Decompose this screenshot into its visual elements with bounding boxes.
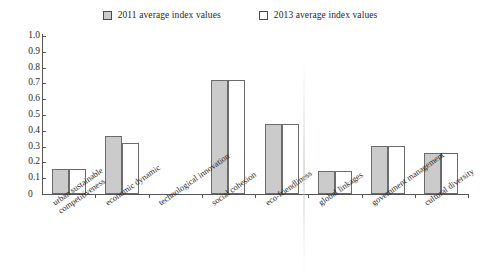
y-tick-label-0.8: 0.8 [28,62,40,72]
y-tick-mark-0.5 [42,115,46,116]
y-tick-0.6: 0.6 [0,99,50,100]
y-tick-0.5: 0.5 [0,115,50,116]
scan-artifact [303,60,305,275]
y-tick-mark-0.2 [42,162,46,163]
x-tick-mark-6 [362,194,363,198]
y-tick-label-0.4: 0.4 [28,125,40,135]
x-tick-mark-7 [415,194,416,198]
y-tick-label-0.7: 0.7 [28,77,40,87]
x-tick-mark-1 [95,194,96,198]
y-tick-label-0.6: 0.6 [28,93,40,103]
bar-2011-3 [211,80,228,194]
y-tick-0.9: 0.9 [0,52,50,53]
y-tick-mark-1.0 [42,36,46,37]
x-tick-mark-8 [468,194,469,198]
y-tick-0.7: 0.7 [0,83,50,84]
y-tick-mark-0.3 [42,147,46,148]
chart-plot-area: 0.10.20.30.40.50.60.70.80.91.0 urban sus… [0,0,480,279]
x-tick-mark-3 [202,194,203,198]
y-axis-zero-label: 0 [28,189,33,199]
y-tick-mark-0.8 [42,68,46,69]
y-tick-mark-0.6 [42,99,46,100]
bar-2011-1 [105,136,122,194]
y-tick-0.8: 0.8 [0,68,50,69]
y-tick-label-0.9: 0.9 [28,46,40,56]
y-tick-label-0.1: 0.1 [28,172,40,182]
y-tick-label-0.2: 0.2 [28,156,40,166]
y-tick-mark-0.1 [42,178,46,179]
y-tick-mark-0.9 [42,52,46,53]
y-tick-mark-0.4 [42,131,46,132]
x-tick-mark-4 [255,194,256,198]
y-tick-0.4: 0.4 [0,131,50,132]
x-tick-mark-5 [308,194,309,198]
y-tick-1.0: 1.0 [0,36,50,37]
y-tick-0.2: 0.2 [0,162,50,163]
y-tick-label-0.5: 0.5 [28,109,40,119]
y-tick-0.1: 0.1 [0,178,50,179]
y-tick-0.3: 0.3 [0,147,50,148]
y-tick-label-0.3: 0.3 [28,141,40,151]
y-tick-label-1.0: 1.0 [28,30,40,40]
bar-2011-4 [265,124,282,194]
x-tick-mark-2 [149,194,150,198]
y-tick-mark-0.7 [42,83,46,84]
